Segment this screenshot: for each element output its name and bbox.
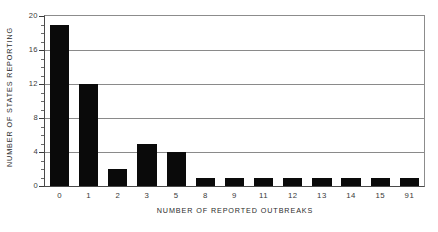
bar	[312, 178, 331, 187]
y-axis-title: NUMBER OF STATES REPORTING	[3, 2, 17, 192]
bar	[400, 178, 419, 187]
plot-area	[44, 15, 425, 187]
bar	[108, 169, 127, 186]
y-axis-tick-label: 0	[8, 182, 38, 190]
bar	[371, 178, 390, 187]
bar	[341, 178, 360, 187]
x-axis-tick-label: 2	[103, 191, 132, 200]
x-axis-tick-label: 14	[337, 191, 366, 200]
bar	[196, 178, 215, 187]
x-axis-tick-label: 3	[132, 191, 161, 200]
bar	[137, 144, 156, 187]
x-axis-tick-label: 13	[307, 191, 336, 200]
bar	[225, 178, 244, 187]
x-axis-tick-label: 1	[74, 191, 103, 200]
x-axis-tick-label: 12	[278, 191, 307, 200]
bar	[254, 178, 273, 187]
bar	[167, 152, 186, 186]
x-axis-tick-label: 11	[249, 191, 278, 200]
y-axis-tick-label: 4	[8, 148, 38, 156]
bar	[79, 84, 98, 186]
y-axis-tick-label: 16	[8, 46, 38, 54]
x-axis-tick-label: 0	[45, 191, 74, 200]
bar	[50, 25, 69, 187]
x-axis-tick-label: 91	[395, 191, 424, 200]
y-axis-tick-label: 8	[8, 114, 38, 122]
x-axis-tick-label: 5	[162, 191, 191, 200]
bar	[283, 178, 302, 187]
x-axis-title: NUMBER OF REPORTED OUTBREAKS	[44, 206, 426, 215]
bars-layer	[45, 16, 424, 186]
y-axis-tick-label: 12	[8, 80, 38, 88]
x-axis-tick-label: 8	[191, 191, 220, 200]
bar-chart-figure: NUMBER OF STATES REPORTING 048121620 012…	[0, 0, 438, 232]
y-axis-tick-label: 20	[8, 12, 38, 20]
x-axis-tick-label: 15	[366, 191, 395, 200]
x-axis-tick-label: 9	[220, 191, 249, 200]
